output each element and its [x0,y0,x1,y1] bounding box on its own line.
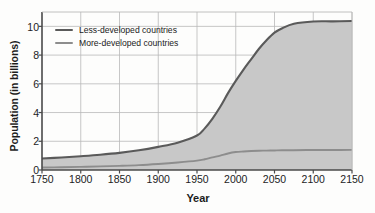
population-growth-chart: Population (in billions) 0 2 4 6 8 10 17… [0,0,375,213]
legend-entry-less-developed: Less-developed countries [55,25,177,35]
legend-swatch-less-developed [55,29,73,32]
legend-entry-more-developed: More-developed countries [55,38,178,48]
legend-label-more-developed: More-developed countries [79,38,178,48]
legend-label-less-developed: Less-developed countries [79,25,177,35]
legend-swatch-more-developed [55,42,73,45]
